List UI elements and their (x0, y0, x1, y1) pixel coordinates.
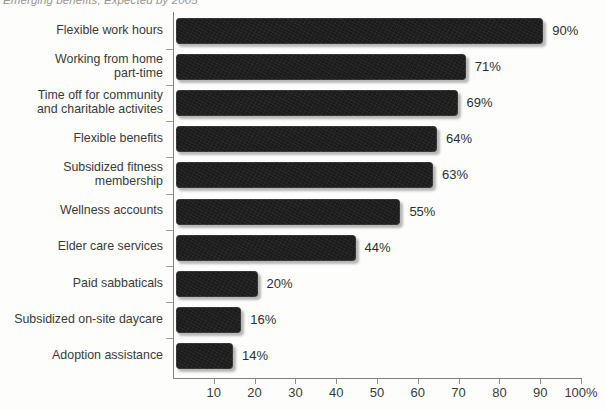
category-label: Paid sabbaticals (0, 276, 163, 290)
bar-row[interactable] (176, 126, 437, 152)
bar-value-label: 90% (552, 23, 578, 38)
bar[interactable] (176, 235, 356, 261)
x-axis-tick (214, 378, 215, 384)
bar[interactable] (176, 162, 433, 188)
x-axis-label: 50 (370, 385, 384, 400)
category-label: Adoption assistance (0, 348, 163, 362)
y-axis-tick (166, 85, 173, 86)
bar-row[interactable] (176, 18, 543, 44)
x-axis-tick (540, 378, 541, 384)
bar[interactable] (176, 18, 543, 44)
chart-title: Emerging benefits, Expected by 2005 (3, 0, 198, 6)
x-axis-tick (336, 378, 337, 384)
bar-value-label: 16% (250, 312, 276, 327)
bar[interactable] (176, 126, 437, 152)
bar[interactable] (176, 271, 258, 297)
y-axis-tick (166, 230, 173, 231)
y-axis-tick (166, 157, 173, 158)
bar-row[interactable] (176, 199, 400, 225)
x-axis-label: 30 (288, 385, 302, 400)
category-label: Wellness accounts (0, 203, 163, 217)
x-axis-tick (418, 378, 419, 384)
bar-row[interactable] (176, 307, 241, 333)
category-label: Elder care services (0, 239, 163, 253)
x-axis-label: 90 (533, 385, 547, 400)
category-label: Flexible benefits (0, 131, 163, 145)
category-label: Subsidized on-site daycare (0, 312, 163, 326)
category-label: Time off for community and charitable ac… (0, 88, 163, 117)
x-axis-tick (581, 378, 582, 384)
bar-row[interactable] (176, 235, 356, 261)
y-axis-tick (166, 194, 173, 195)
bar-value-label: 71% (475, 59, 501, 74)
x-axis-label: 20 (247, 385, 261, 400)
bar-row[interactable] (176, 54, 466, 80)
bar-value-label: 63% (442, 167, 468, 182)
y-axis-tick (166, 302, 173, 303)
x-axis-tick (295, 378, 296, 384)
x-axis-label: 100% (564, 385, 597, 400)
bar-value-label: 14% (242, 348, 268, 363)
y-axis-tick (166, 121, 173, 122)
bar-value-label: 20% (267, 276, 293, 291)
bar-row[interactable] (176, 343, 233, 369)
bar-value-label: 69% (467, 95, 493, 110)
x-axis-label: 60 (411, 385, 425, 400)
category-label: Working from home part-time (0, 52, 163, 81)
bar[interactable] (176, 54, 466, 80)
x-axis-label: 40 (329, 385, 343, 400)
bar[interactable] (176, 307, 241, 333)
x-axis-label: 70 (451, 385, 465, 400)
bar[interactable] (176, 90, 458, 116)
x-axis-label: 80 (492, 385, 506, 400)
chart-page: Emerging benefits, Expected by 2005 Flex… (0, 0, 605, 410)
bar-value-label: 44% (365, 240, 391, 255)
x-axis-tick (377, 378, 378, 384)
y-axis-tick (166, 266, 173, 267)
bar[interactable] (176, 343, 233, 369)
x-axis-tick (255, 378, 256, 384)
y-axis-tick (166, 338, 173, 339)
x-axis-label: 10 (207, 385, 221, 400)
bar-row[interactable] (176, 271, 258, 297)
y-axis-line (173, 12, 174, 379)
bar-value-label: 55% (409, 204, 435, 219)
bar[interactable] (176, 199, 400, 225)
x-axis-tick (499, 378, 500, 384)
bar-row[interactable] (176, 90, 458, 116)
bar-value-label: 64% (446, 131, 472, 146)
x-axis-tick (459, 378, 460, 384)
bar-row[interactable] (176, 162, 433, 188)
category-label: Flexible work hours (0, 23, 163, 37)
category-label: Subsidized fitness membership (0, 160, 163, 189)
y-axis-tick (166, 49, 173, 50)
